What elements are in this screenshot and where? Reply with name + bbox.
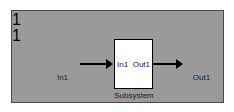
outport-caption: Out1 (184, 73, 219, 82)
arrow-head-into-outport (176, 59, 183, 69)
outport-port-number: 1 (12, 27, 21, 44)
subsystem-output-port-label: Out1 (133, 60, 150, 69)
arrow-head-into-subsystem (106, 59, 113, 69)
outport-block[interactable]: 1 (12, 27, 47, 43)
subsystem-caption: Subsystem (104, 91, 164, 100)
signal-line-subsystem-to-outport[interactable] (153, 63, 177, 65)
inport-port-number: 1 (12, 11, 21, 28)
inport-block[interactable]: 1 (12, 11, 47, 27)
signal-line-inport-to-subsystem[interactable] (80, 63, 107, 65)
subsystem-input-port-label: In1 (117, 60, 128, 69)
simulink-model-window: 1 In1 In1 Out1 Subsystem 1 Out1 (0, 0, 234, 112)
model-canvas[interactable]: 1 In1 In1 Out1 Subsystem 1 Out1 (11, 10, 224, 103)
subsystem-block[interactable]: In1 Out1 (114, 39, 153, 89)
inport-caption: In1 (45, 73, 80, 82)
